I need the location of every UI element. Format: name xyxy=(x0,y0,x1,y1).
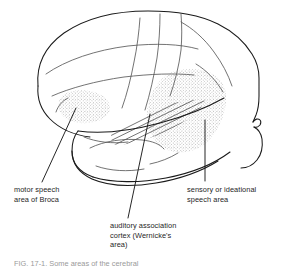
label-sensory-or-ideational-speech-area: sensory or ideational speech area xyxy=(187,185,256,204)
label-wernicke-line-3: area) xyxy=(110,240,176,250)
label-wernicke-line-2: cortex (Wernicke's xyxy=(110,231,176,241)
label-auditory-association-cortex-wernicke: auditory association cortex (Wernicke's … xyxy=(110,221,176,250)
label-broca-line-1: motor speech xyxy=(14,185,59,195)
label-broca-line-2: area of Broca xyxy=(14,195,59,205)
figure-caption-cutoff: FIG. 17-1. Some areas of the cerebral xyxy=(14,259,274,266)
label-wernicke-line-1: auditory association xyxy=(110,221,176,231)
label-sensory-line-2: speech area xyxy=(187,195,256,205)
label-sensory-line-1: sensory or ideational xyxy=(187,185,256,195)
brain-speech-areas-figure: motor speech area of Broca auditory asso… xyxy=(0,0,295,266)
label-motor-speech-area-of-broca: motor speech area of Broca xyxy=(14,185,59,204)
